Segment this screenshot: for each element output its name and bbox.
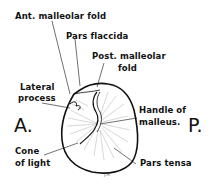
- label-cone-of-light-line1: Cone: [15, 146, 39, 156]
- pars-tensa-shading: [67, 92, 130, 160]
- label-posterior: P.: [188, 115, 203, 135]
- label-pars-tensa: Pars tensa: [140, 158, 192, 168]
- drum-outline: [62, 83, 138, 173]
- label-cone-of-light-line2: of light: [15, 158, 50, 168]
- artist-signature: J.H.: [104, 172, 111, 177]
- label-lateral-process-line1: Lateral: [20, 82, 55, 92]
- label-post-malleolar-fold-line2: fold: [118, 63, 137, 73]
- drum-drawing: [0, 0, 215, 184]
- label-lateral-process-line2: process: [18, 93, 56, 103]
- tympanic-membrane-diagram: Ant. malleolar fold Pars flaccida Post. …: [0, 0, 215, 184]
- lateral-process: [70, 102, 80, 110]
- label-handle-of-malleus-line1: Handle of: [139, 105, 186, 115]
- label-anterior: A.: [14, 115, 33, 135]
- label-pars-flaccida: Pars flaccida: [66, 31, 128, 41]
- label-post-malleolar-fold-line1: Post. malleolar: [92, 51, 166, 61]
- label-handle-of-malleus-line2: malleus.: [139, 117, 180, 127]
- handle-of-malleus: [80, 92, 98, 144]
- leader-lines: [42, 21, 137, 164]
- label-ant-malleolar-fold: Ant. malleolar fold: [15, 11, 106, 21]
